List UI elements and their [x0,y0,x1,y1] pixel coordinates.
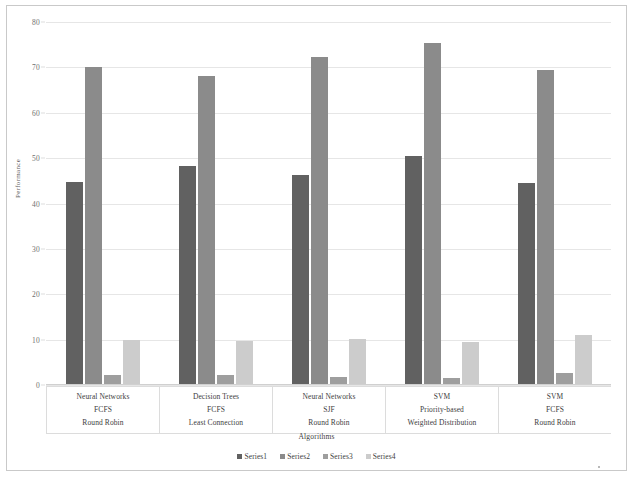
x-tick-label-line-2: FCFS [94,406,112,415]
x-axis-line [46,384,611,385]
legend-swatch-icon [366,454,371,459]
y-tick-mark [41,339,45,340]
y-tick-label: 0 [36,381,40,390]
bar-series2[interactable] [537,70,554,385]
bar-groups [46,22,611,385]
bar-series2[interactable] [424,43,441,385]
legend-item[interactable]: Series3 [323,452,353,461]
x-tick-label-line-1: SVM [434,393,451,402]
x-tick-label-line-3: Round Robin [82,419,123,428]
y-tick-label: 70 [32,63,40,72]
bar-group [498,22,611,385]
bar-series4[interactable] [575,335,592,385]
bar-series4[interactable] [349,339,366,385]
category-label-table: Neural NetworksFCFSRound RobinDecision T… [46,386,611,434]
x-tick-label-line-3: Round Robin [534,419,575,428]
bar-series1[interactable] [518,183,535,385]
legend-item[interactable]: Series4 [366,452,396,461]
x-tick-label-line-2: FCFS [546,406,564,415]
y-tick-mark [41,22,45,23]
x-category-cell: Neural NetworksSJFRound Robin [273,387,386,433]
x-tick-label-line-1: Neural Networks [303,393,356,402]
x-tick-label-line-2: SJF [323,406,335,415]
y-tick-mark [41,203,45,204]
x-tick-label-line-3: Least Connection [189,419,243,428]
legend-label: Series4 [373,452,396,461]
y-tick-mark [41,385,45,386]
y-tick-label: 60 [32,108,40,117]
x-tick-label-line-2: Priority-based [420,406,464,415]
y-tick-label: 50 [32,154,40,163]
y-tick-mark [41,158,45,159]
bar-series4[interactable] [236,341,253,385]
legend-item[interactable]: Series1 [237,452,267,461]
bar-series2[interactable] [311,57,328,385]
x-tick-label-line-3: Round Robin [308,419,349,428]
y-tick-mark [41,67,45,68]
y-tick-label: 30 [32,244,40,253]
x-tick-label-line-2: FCFS [207,406,225,415]
x-category-cell: SVMFCFSRound Robin [499,387,611,433]
bar-group [385,22,498,385]
legend-label: Series2 [287,452,310,461]
x-category-cell: Decision TreesFCFSLeast Connection [160,387,273,433]
x-category-cell: Neural NetworksFCFSRound Robin [46,387,160,433]
x-tick-label-line-3: Weighted Distribution [408,419,477,428]
y-tick-mark [41,112,45,113]
y-tick-label: 40 [32,199,40,208]
x-axis-title: Algorithms [0,432,633,441]
bar-series2[interactable] [198,76,215,385]
legend-swatch-icon [323,454,328,459]
chart-figure: Performance 01020304050607080 Neural Net… [0,0,633,482]
x-tick-label-line-1: Neural Networks [77,393,130,402]
bar-series1[interactable] [405,156,422,385]
x-tick-label-line-1: Decision Trees [193,393,239,402]
legend-label: Series1 [244,452,267,461]
plot-area: 01020304050607080 [46,22,611,385]
y-tick-label: 10 [32,335,40,344]
y-tick-label: 80 [32,18,40,27]
y-tick-mark [41,248,45,249]
y-tick-mark [41,294,45,295]
bar-group [46,22,159,385]
bar-series1[interactable] [292,175,309,385]
y-axis-title: Performance [14,159,22,198]
bar-series4[interactable] [462,342,479,385]
chart-legend: Series1Series2Series3Series4 [0,452,633,461]
bar-series1[interactable] [66,182,83,385]
bar-series1[interactable] [179,166,196,385]
bar-series4[interactable] [123,340,140,385]
legend-swatch-icon [280,454,285,459]
bar-group [272,22,385,385]
bar-group [159,22,272,385]
legend-label: Series3 [330,452,353,461]
legend-item[interactable]: Series2 [280,452,310,461]
corner-mark-icon [598,466,600,468]
legend-swatch-icon [237,454,242,459]
bar-series2[interactable] [85,67,102,385]
x-tick-label-line-1: SVM [547,393,564,402]
x-category-cell: SVMPriority-basedWeighted Distribution [386,387,499,433]
y-tick-label: 20 [32,290,40,299]
